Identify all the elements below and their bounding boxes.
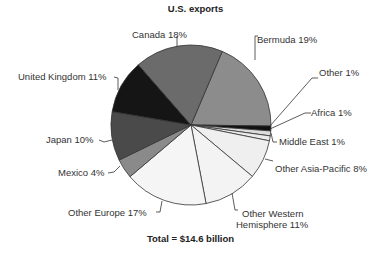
leader-other-europe	[156, 201, 162, 212]
label-canada: Canada 18%	[132, 29, 187, 40]
label-other-asia-pacific: Other Asia-Pacific 8%	[275, 163, 367, 174]
leader-other-western	[232, 193, 238, 210]
label-middle-east: Middle East 1%	[279, 136, 345, 147]
leader-middle-east	[271, 133, 277, 142]
leader-africa	[270, 113, 311, 129]
leader-mexico	[108, 166, 120, 173]
label-bermuda: Bermuda 19%	[257, 34, 317, 45]
leader-other-asia-pacific	[265, 159, 273, 161]
pie-chart	[0, 0, 391, 256]
label-japan: Japan 10%	[46, 134, 94, 145]
pie-slices	[111, 45, 271, 205]
label-other: Other 1%	[319, 67, 359, 78]
label-other-western-line2: Hemisphere 11%	[236, 219, 308, 230]
label-mexico: Mexico 4%	[58, 167, 104, 178]
leader-united-kingdom	[114, 77, 118, 90]
leader-other	[270, 78, 318, 126]
label-other-western-line1: Other Western	[242, 208, 304, 219]
leader-japan	[99, 140, 112, 142]
chart-total: Total = $14.6 billion	[0, 233, 381, 244]
label-africa: Africa 1%	[311, 107, 352, 118]
label-other-europe: Other Europe 17%	[68, 207, 147, 218]
label-united-kingdom: United Kingdom 11%	[18, 71, 107, 82]
